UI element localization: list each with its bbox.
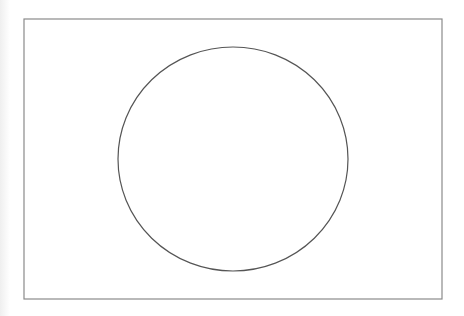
frame-rectangle <box>24 19 442 299</box>
diagram-canvas <box>0 0 464 316</box>
diagram-page <box>0 0 464 316</box>
circle-shape <box>118 47 348 271</box>
